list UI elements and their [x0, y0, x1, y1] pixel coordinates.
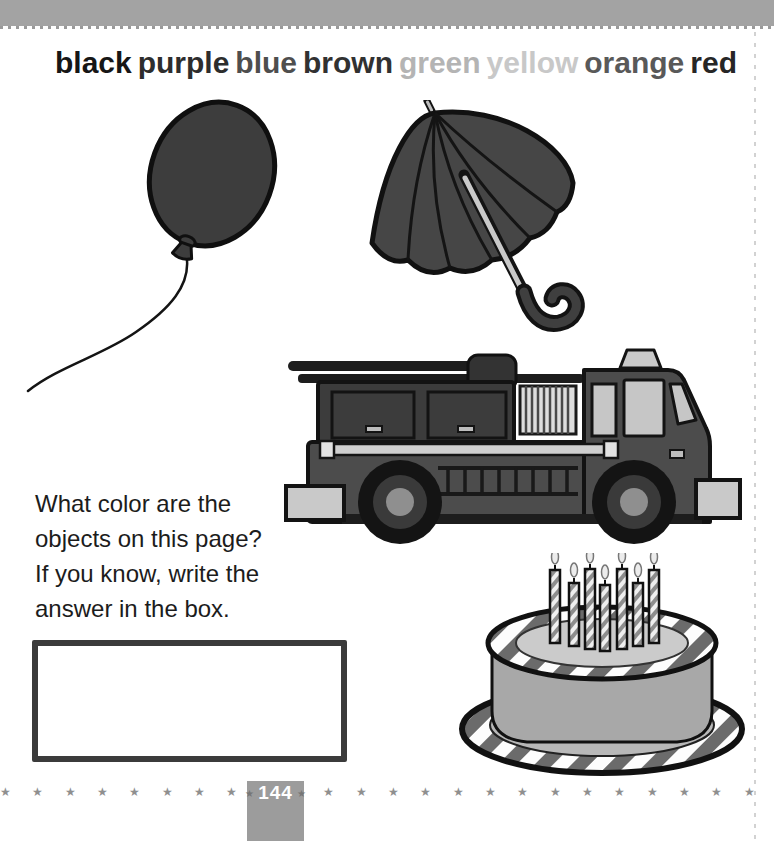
- color-word-brown: brown: [303, 46, 393, 80]
- question-text: What color are the objects on this page?…: [35, 486, 305, 626]
- star-icon: ★: [297, 785, 306, 803]
- color-word-black: black: [55, 46, 132, 80]
- color-word-green: green: [399, 46, 481, 80]
- page-number: 144: [258, 785, 293, 801]
- umbrella-icon: [352, 100, 602, 345]
- perforation-right: [754, 32, 756, 841]
- perforation-top: [0, 26, 774, 29]
- color-word-orange: orange: [584, 46, 684, 80]
- star-strip: ★ ★ ★ ★ ★ ★ ★ ★ ★ ★ ★ ★ ★ ★ ★ ★ ★ ★ ★ ★ …: [0, 784, 774, 802]
- color-word-bank: black purple blue brown green yellow ora…: [55, 46, 737, 80]
- birthday-cake-icon: [452, 553, 752, 781]
- page-top-band: [0, 0, 774, 26]
- color-word-yellow: yellow: [487, 46, 579, 80]
- star-icon: ★: [245, 785, 254, 803]
- fire-truck-icon: [282, 346, 742, 546]
- balloon-icon: [18, 95, 278, 400]
- color-word-purple: purple: [138, 46, 230, 80]
- color-word-blue: blue: [235, 46, 297, 80]
- answer-box[interactable]: [32, 640, 347, 762]
- color-word-red: red: [690, 46, 737, 80]
- page-number-badge: ★ 144 ★: [247, 781, 304, 841]
